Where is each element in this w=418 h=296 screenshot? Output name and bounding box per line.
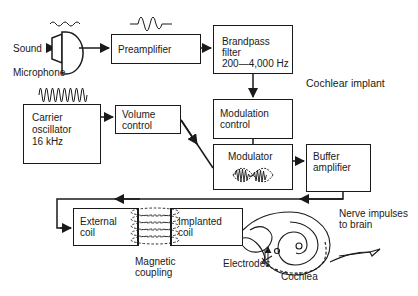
buffer-amplifier-block: Buffer amplifier bbox=[306, 144, 371, 192]
modulator-label: Modulator bbox=[228, 151, 272, 162]
carrier-oscillator-label: Carrier oscillator 16 kHz bbox=[32, 112, 71, 148]
cochlear-implant-title: Cochlear implant bbox=[306, 78, 385, 89]
modulator-block: Modulator bbox=[213, 144, 293, 190]
microphone-label: Microphone bbox=[13, 67, 65, 78]
carrier-wave-icon bbox=[39, 88, 87, 102]
sound-wave-icon bbox=[50, 22, 80, 26]
sound-label: Sound bbox=[13, 43, 42, 54]
preamplifier-label: Preamplifier bbox=[118, 44, 171, 55]
magnetic-coupling-label: Magnetic coupling bbox=[135, 256, 176, 278]
modulation-control-block: Modulation control bbox=[213, 99, 293, 139]
volume-control-label: Volume control bbox=[122, 109, 155, 131]
bandpass-filter-block: Brandpass filter 200—4,000 Hz bbox=[213, 25, 293, 74]
amplified-wave-icon bbox=[130, 17, 172, 31]
cochlea-label: Cochlea bbox=[281, 271, 318, 282]
nerve-impulses-label: Nerve impulses to brain bbox=[339, 208, 408, 230]
modulation-control-label: Modulation control bbox=[220, 108, 269, 130]
modulated-wave-icon bbox=[231, 166, 275, 184]
carrier-oscillator-block: Carrier oscillator 16 kHz bbox=[23, 104, 101, 164]
implanted-coil-block: Implanted coil bbox=[170, 208, 243, 246]
external-coil-label: External coil bbox=[80, 216, 117, 238]
bandpass-filter-label: Brandpass filter 200—4,000 Hz bbox=[222, 36, 289, 69]
buffer-amplifier-label: Buffer amplifier bbox=[313, 151, 351, 173]
external-coil-block: External coil bbox=[73, 208, 139, 246]
electrodes-label: Electrodes bbox=[223, 258, 270, 269]
preamplifier-block: Preamplifier bbox=[111, 34, 201, 64]
volume-control-block: Volume control bbox=[115, 105, 181, 134]
implanted-coil-label: Implanted coil bbox=[178, 216, 222, 238]
